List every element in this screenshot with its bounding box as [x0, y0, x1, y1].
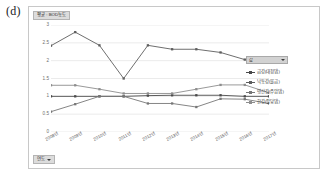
legend-marker — [249, 91, 252, 94]
data-point-marker — [219, 94, 221, 96]
chevron-down-icon — [281, 59, 285, 61]
data-point-marker — [195, 106, 197, 108]
data-point-marker — [219, 51, 221, 53]
data-point-marker — [98, 95, 100, 97]
x-axis-tick-label: 2010년 — [93, 132, 107, 142]
series-line — [51, 85, 269, 94]
data-point-marker — [51, 45, 52, 47]
x-axis-tick-label: 2012년 — [142, 132, 156, 142]
plot-area — [51, 25, 269, 132]
y-axis-tick-label: 2 — [46, 58, 49, 63]
y-axis-tick-label: 0.5 — [43, 112, 49, 117]
data-point-marker — [123, 92, 125, 94]
data-point-marker — [123, 95, 125, 97]
data-point-marker — [171, 102, 173, 104]
chevron-down-icon — [47, 159, 51, 161]
y-axis-tick-label: 3 — [46, 23, 49, 28]
data-point-marker — [74, 84, 76, 86]
series-line — [51, 32, 269, 78]
legend-swatch-icon — [246, 80, 255, 85]
legend-marker — [249, 101, 252, 104]
legend-item[interactable]: 금강(대청댐) — [246, 67, 288, 77]
x-axis-tick-label: 2015년 — [214, 132, 228, 142]
data-point-marker — [51, 84, 52, 86]
data-point-marker — [74, 31, 76, 33]
pivot-value-field-label: 평균 : BOD농도 — [37, 13, 66, 17]
chart-plot-svg — [51, 25, 269, 132]
data-point-marker — [51, 111, 52, 113]
legend-swatch-icon — [246, 100, 255, 105]
data-point-marker — [147, 94, 149, 96]
data-point-marker — [147, 44, 149, 46]
x-axis-tick-label: 2017년 — [263, 132, 277, 142]
x-axis-tick-label: 2009년 — [69, 132, 83, 142]
y-axis-tick-labels: 00.511.522.53 — [33, 25, 49, 132]
y-axis-tick-label: 0 — [46, 130, 49, 135]
legend-swatch-icon — [246, 70, 255, 75]
pivot-value-field-button[interactable]: 평균 : BOD농도 — [33, 11, 70, 20]
x-axis-tick-label: 2016년 — [239, 132, 253, 142]
legend-item-label: 낙동강(물금) — [257, 80, 280, 84]
legend-swatch-icon — [246, 90, 255, 95]
data-point-marker — [219, 84, 221, 86]
legend-filter-button[interactable]: 값 — [246, 56, 288, 64]
data-point-marker — [171, 48, 173, 50]
legend-marker — [249, 81, 252, 84]
gridlines — [51, 25, 269, 132]
legend-item[interactable]: 한강(팔당댐) — [246, 97, 288, 107]
data-point-marker — [195, 88, 197, 90]
data-point-marker — [98, 44, 100, 46]
data-point-marker — [123, 77, 125, 79]
legend-marker — [249, 71, 252, 74]
legend-item-label: 금강(대청댐) — [257, 70, 280, 74]
legend-item-label: 한강(팔당댐) — [257, 100, 280, 104]
data-point-marker — [147, 92, 149, 94]
x-axis-tick-label: 2011년 — [118, 132, 132, 142]
series-layer — [51, 31, 269, 113]
data-point-marker — [195, 94, 197, 96]
data-point-marker — [74, 95, 76, 97]
legend-items: 금강(대청댐)낙동강(물금)영산강(주암댐)한강(팔당댐) — [246, 67, 288, 107]
y-axis-tick-label: 2.5 — [43, 41, 49, 46]
figure-panel-label: (d) — [6, 4, 21, 19]
x-axis-tick-labels: 2008년2009년2010년2011년2012년2013년2014년2015년… — [51, 135, 269, 149]
x-axis-tick-label: 2013년 — [166, 132, 180, 142]
series-line — [51, 96, 269, 111]
data-point-marker — [51, 95, 52, 97]
data-point-marker — [195, 48, 197, 50]
pivot-axis-field-label: 연도 — [37, 157, 45, 161]
legend-item[interactable]: 낙동강(물금) — [246, 77, 288, 87]
data-point-marker — [98, 88, 100, 90]
data-point-marker — [219, 98, 221, 100]
data-point-marker — [171, 92, 173, 94]
x-axis-tick-label: 2014년 — [190, 132, 204, 142]
data-point-marker — [147, 102, 149, 104]
legend-item[interactable]: 영산강(주암댐) — [246, 87, 288, 97]
y-axis-tick-label: 1.5 — [43, 76, 49, 81]
y-axis-tick-label: 1 — [46, 94, 49, 99]
data-point-marker — [74, 103, 76, 105]
legend-filter-label: 값 — [249, 58, 253, 62]
chart-legend: 값 금강(대청댐)낙동강(물금)영산강(주암댐)한강(팔당댐) — [246, 56, 288, 107]
pivot-axis-field-button[interactable]: 연도 — [33, 155, 55, 164]
legend-item-label: 영산강(주암댐) — [257, 90, 284, 94]
